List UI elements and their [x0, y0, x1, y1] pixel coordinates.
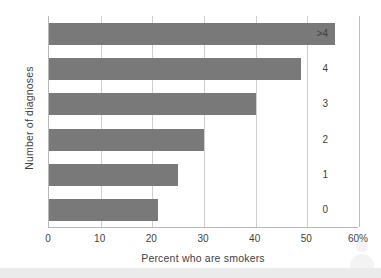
x-axis-title: Percent who are smokers — [48, 252, 358, 264]
plot-area — [48, 16, 358, 228]
bar-fill — [49, 93, 256, 115]
y-tick-label-0: 0 — [288, 205, 328, 215]
x-tick-label-10: 10 — [80, 233, 120, 244]
bar-2 — [49, 129, 204, 151]
bar-fill — [49, 129, 204, 151]
y-tick-label-4: 4 — [288, 64, 328, 74]
gridline-60 — [359, 16, 360, 227]
bar-fill — [49, 199, 158, 221]
bar-3 — [49, 93, 256, 115]
y-tick-label->4: >4 — [288, 29, 328, 39]
x-tick-label-0: 0 — [28, 233, 68, 244]
x-tick-label-20: 20 — [131, 233, 171, 244]
bar-0 — [49, 199, 158, 221]
x-tick-label-50: 50 — [286, 233, 326, 244]
bar-chart-figure: Number of diagnoses >443210 010203040506… — [0, 0, 381, 278]
y-tick-label-1: 1 — [288, 170, 328, 180]
y-axis-title: Number of diagnoses — [23, 23, 35, 213]
bars-group — [49, 16, 358, 227]
bar-1 — [49, 164, 178, 186]
bar-fill — [49, 58, 301, 80]
x-tick-label-40: 40 — [235, 233, 275, 244]
x-tick-label-60%: 60% — [338, 233, 378, 244]
bottom-strip — [0, 268, 381, 278]
y-tick-label-2: 2 — [288, 135, 328, 145]
y-tick-label-3: 3 — [288, 99, 328, 109]
x-tick-label-30: 30 — [183, 233, 223, 244]
bar-4 — [49, 58, 301, 80]
bar-fill — [49, 164, 178, 186]
